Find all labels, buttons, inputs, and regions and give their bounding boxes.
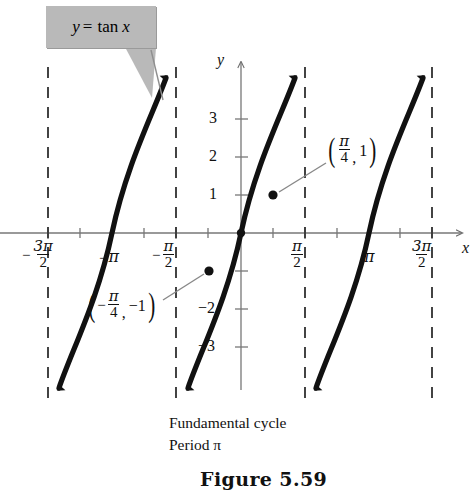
annotation-pi-over-4: ( π4 , 1 ) [326,135,379,166]
paren-close: ) [369,137,376,164]
leader-line-pi-over-4 [279,163,326,192]
callout-equals: = [80,17,96,37]
annotation-y-value: 1 [359,143,367,159]
y-axis-label: y [217,52,224,68]
annotation-comma: , [121,305,129,321]
x-tick-label-pi: π [364,249,375,265]
callout-tail [125,47,156,98]
x-tick-denominator: 2 [37,254,49,270]
x-tick-denominator: 2 [291,254,303,270]
caption-fundamental-cycle: Fundamental cycle [169,415,287,431]
annotation-comma: , [351,150,359,166]
x-tick-label-neg-pi: −π [99,249,119,266]
callout-function: tan [95,17,118,37]
marked-point-pi-over-4 [268,190,277,199]
x-tick-numerator: 3π [410,239,433,254]
callout-variable: x [118,17,130,37]
marked-point-origin [237,229,245,237]
annotation-neg-pi-over-4: ( − π4 , −1 ) [86,290,157,321]
x-tick-numerator: 3π [31,239,54,254]
x-tick-sign: − [22,247,31,263]
annotation-denominator: 4 [108,304,120,320]
x-tick-sign: − [152,247,161,263]
x-tick-denominator: 2 [416,254,428,270]
y-tick-label-neg-2: −2 [198,300,215,316]
y-tick-label-neg-3: −3 [198,338,215,354]
paren-close: ) [148,292,155,319]
x-tick-numerator: π [290,239,304,254]
annotation-y-value: −1 [129,298,146,314]
x-tick-numerator: π [108,247,119,266]
paren-open: ( [88,292,95,319]
paren-open: ( [328,137,335,164]
x-tick-numerator: π [161,239,175,254]
x-tick-label-neg-3pi-over-2: −3π2 [22,240,55,271]
annotation-numerator: π [337,134,351,149]
x-axis-label: x [462,240,469,256]
y-tick-label-2: 2 [209,148,217,164]
figure-container: y = tan x y x 3 2 1 −2 −3 −3π2 −π −π2 π2… [0,0,472,502]
x-tick-numerator: π [364,247,375,266]
annotation-sign: − [97,298,106,313]
x-tick-label-neg-pi-over-2: −π2 [152,240,175,271]
annotation-denominator: 4 [339,149,351,165]
marked-point-neg-pi-over-4 [204,266,213,275]
y-tick-label-3: 3 [209,110,217,126]
caption-period: Period π [169,437,221,453]
callout-label: y = tan x [46,6,156,48]
x-tick-denominator: 2 [163,254,175,270]
figure-number-label: Figure 5.59 [200,470,327,489]
x-tick-label-pi-over-2: π2 [290,240,304,271]
callout-lhs: y [72,17,80,37]
leader-line-neg-pi-over-4 [163,274,204,300]
annotation-numerator: π [107,289,121,304]
y-tick-label-1: 1 [209,186,217,202]
x-tick-label-3pi-over-2: 3π2 [410,240,433,271]
